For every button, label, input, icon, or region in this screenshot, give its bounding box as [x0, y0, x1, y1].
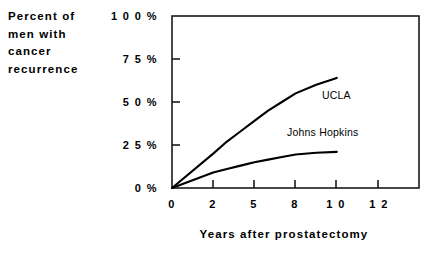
plot-frame [172, 16, 419, 188]
x-axis-title: Years after prostatectomy [150, 228, 418, 240]
series-label-johns-hopkins: Johns Hopkins [287, 126, 358, 138]
y-axis-ticks [172, 59, 180, 145]
plot-area [0, 0, 438, 253]
chart-container: Percent of men with cancer recurrence 1 … [0, 0, 438, 253]
x-axis-ticks [213, 180, 378, 188]
series-label-ucla: UCLA [322, 89, 351, 101]
